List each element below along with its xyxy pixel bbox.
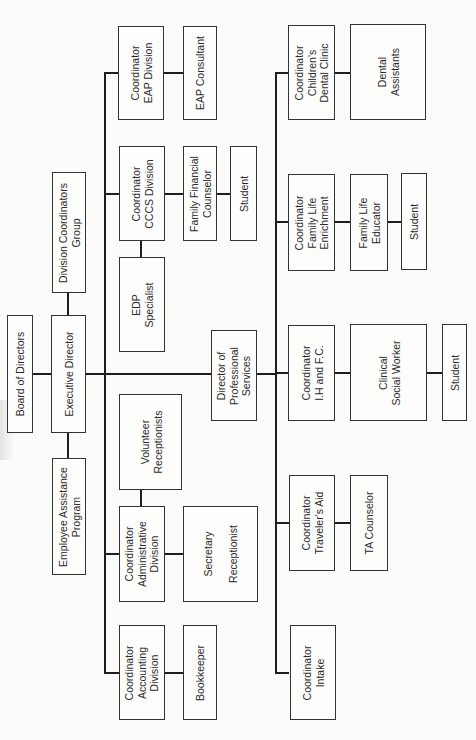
family-life-student-box: Student [401,173,427,270]
csw-to-student [426,372,442,374]
ihfc-label: Coordinator I.H and F.C. [299,345,324,400]
fle-label: Coordinator Family Life Enrichment [293,195,331,250]
ihfc-branch [275,372,289,374]
educator-label: Family Life Educator [357,197,382,248]
coordinator-administrative-division-box: Coordinator Administrative Division [119,506,165,602]
intake-branch [275,672,289,674]
eapdiv-to-consultant [163,72,183,74]
volunteer-label: Volunteer Receptionists [138,410,163,473]
board-label: Board of Directors [14,332,27,417]
acct-to-bookkeeper [164,672,183,674]
coordinator-travelers-aid-box: Coordinator Traveler's Aid [289,475,335,571]
dental-to-assistants [334,72,351,74]
family-life-educator-box: Family Life Educator [350,174,388,271]
ta-counselor-box: TA Counselor [350,475,388,571]
acct-branch [104,672,119,674]
csw-label: Clinical Social Worker [376,340,401,405]
secretary-label: Secretary Receptionist [202,525,240,583]
eap-consultant-box: EAP Consultant [183,26,217,120]
exec-to-eap-line [67,433,69,458]
accounting-division-label: Coordinator Accounting Division [123,645,161,700]
admin-branch [104,553,119,555]
admin-division-label: Coordinator Administrative Division [123,521,161,587]
edp-specialist-box: EDP Specialist [119,257,165,352]
bookkeeper-box: Bookkeeper [183,625,217,720]
clinical-social-worker-box: Clinical Social Worker [350,324,427,421]
coordinator-accounting-division-box: Coordinator Accounting Division [119,625,165,720]
coordinator-intake-box: Coordinator Intake [290,625,336,720]
employee-assistance-program-box: Employee Assistance Program [52,458,86,575]
edp-label: EDP Specialist [130,282,155,327]
dental-assistants-box: Dental Assistants [350,24,426,120]
board-of-directors-box: Board of Directors [7,315,33,433]
ffc-label: Family Financial Counselor [188,156,213,232]
dps-label: Director of Professional Services [215,347,253,405]
cccs-student-label: Student [237,175,250,211]
dental-branch [275,72,289,74]
org-chart: Board of Directors Executive Director Di… [0,0,476,740]
fle-to-educator [334,221,351,223]
intake-label: Coordinator Intake [301,645,326,700]
eap-program-label: Employee Assistance Program [57,467,82,567]
director-professional-services-box: Director of Professional Services [211,330,257,421]
division-coordinators-group-box: Division Coordinators Group [52,172,86,293]
cccs-student-box: Student [230,146,257,241]
coordinator-family-life-enrichment-box: Coordinator Family Life Enrichment [288,174,335,271]
cccs-to-edp [140,241,142,257]
fl-student-label: Student [408,203,421,239]
board-to-exec-line [32,373,51,375]
ta-to-counselor [334,522,351,524]
ta-counselor-label: TA Counselor [363,492,376,555]
bookkeeper-label: Bookkeeper [194,644,207,700]
executive-label: Executive Director [62,331,75,416]
executive-director-box: Executive Director [51,315,86,433]
ihfc-to-csw [334,372,351,374]
secretary-receptionist-box: Secretary Receptionist [183,506,258,602]
exec-to-divgroup-line [67,293,69,315]
dps-to-right-trunk [256,373,276,375]
division-group-label: Division Coordinators Group [57,183,82,283]
family-financial-counselor-box: Family Financial Counselor [183,146,217,241]
dental-clinic-label: Coordinator Children's Dental Clinic [293,43,331,102]
dental-assistants-label: Dental Assistants [376,48,401,96]
coordinator-dental-clinic-box: Coordinator Children's Dental Clinic [288,25,335,120]
cccs-branch [104,193,119,195]
coordinator-ih-fc-box: Coordinator I.H and F.C. [288,325,335,421]
admin-to-volunteer [140,489,142,506]
ihfc-student-box: Student [442,324,467,421]
ihfc-student-label: Student [448,354,461,390]
eap-consultant-label: EAP Consultant [194,36,207,110]
cccs-to-ffc [164,193,183,195]
coordinator-cccs-division-box: Coordinator CCCS Division [119,146,165,241]
exec-to-trunk-line [85,373,105,375]
family-life-branch [275,221,289,223]
ta-coord-label: Coordinator Traveler's Aid [300,492,325,555]
educator-to-student [387,221,401,223]
eapdiv-branch [104,72,119,74]
ffc-to-student [217,193,230,195]
coordinator-eap-division-box: Coordinator EAP Division [118,26,164,120]
eap-division-label: Coordinator EAP Division [129,43,154,104]
ta-branch [275,522,289,524]
admin-to-secretary [164,553,183,555]
dps-branch [104,373,211,375]
cccs-division-label: Coordinator CCCS Division [130,159,155,228]
volunteer-receptionists-box: Volunteer Receptionists [119,394,182,490]
